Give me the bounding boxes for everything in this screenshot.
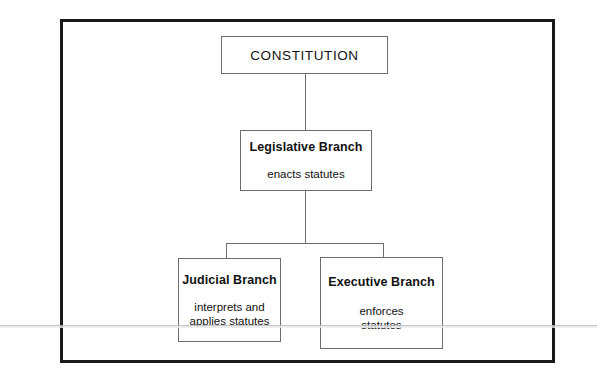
connector-horizontal-bus — [226, 243, 384, 244]
node-constitution: CONSTITUTION — [221, 36, 388, 74]
node-legislative-title: Legislative Branch — [250, 140, 363, 155]
node-judicial-title: Judicial Branch — [182, 273, 277, 288]
diagram-canvas: CONSTITUTION Legislative Branch enacts s… — [0, 0, 597, 384]
connector-legislative-to-bus — [305, 191, 306, 244]
scan-artifact-line — [0, 325, 597, 326]
connector-constitution-to-legislative — [305, 74, 306, 131]
connector-bus-to-executive — [383, 243, 384, 258]
node-judicial-description: interprets and applies statutes — [190, 300, 270, 328]
node-executive-title: Executive Branch — [328, 275, 435, 290]
node-judicial: Judicial Branch interprets and applies s… — [178, 258, 281, 342]
connector-bus-to-judicial — [226, 243, 227, 259]
node-constitution-title: CONSTITUTION — [250, 48, 358, 63]
node-executive: Executive Branch enforces statutes — [320, 257, 443, 349]
scan-artifact-soft-line — [0, 326, 597, 328]
node-legislative: Legislative Branch enacts statutes — [240, 130, 372, 191]
node-legislative-description: enacts statutes — [267, 167, 344, 181]
